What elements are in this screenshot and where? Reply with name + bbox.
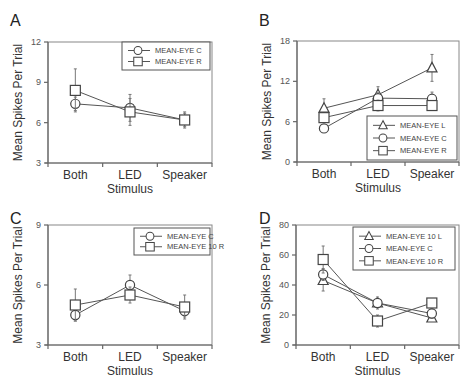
x-axis-title: Stimulus (354, 364, 400, 378)
legend: MEAN-EYE 10 LMEAN-EYE CMEAN-EYE 10 R (353, 227, 455, 270)
series-mean-eye-r (70, 69, 189, 128)
y-axis-title: Mean Spikes Per Trial (11, 44, 25, 161)
circle-marker-icon (365, 245, 373, 253)
square-marker-icon (70, 85, 80, 95)
x-category-label: LED (118, 168, 142, 182)
series-mean-eye-10-l (318, 270, 437, 322)
y-tick-label: 40 (279, 280, 289, 290)
square-marker-icon (379, 146, 388, 155)
legend-label: MEAN-EYE 10 R (386, 257, 444, 266)
x-axis-title: Stimulus (107, 182, 153, 196)
x-category-label: LED (366, 167, 390, 181)
y-tick-label: 6 (36, 280, 41, 290)
y-tick-label: 9 (36, 220, 41, 230)
legend: MEAN-EYE CMEAN-EYE R (122, 42, 210, 70)
y-tick-label: 20 (279, 310, 289, 320)
square-marker-icon (134, 57, 143, 66)
circle-marker-icon (427, 309, 436, 318)
y-tick-label: 6 (36, 118, 41, 128)
legend-label: MEAN-EYE C (400, 134, 447, 143)
y-tick-label: 3 (36, 158, 41, 168)
square-marker-icon (146, 243, 155, 252)
circle-marker-icon (319, 124, 328, 133)
panel-letter: B (259, 12, 270, 29)
legend-label: MEAN-EYE R (155, 57, 202, 66)
x-category-label: Speaker (162, 350, 207, 364)
y-axis-title: Mean Spikes Per Trial (260, 43, 274, 160)
legend-label: MEAN-EYE C (386, 244, 433, 253)
x-category-label: Speaker (409, 350, 454, 364)
legend-label: MEAN-EYE L (400, 121, 445, 130)
y-tick-label: 12 (31, 37, 41, 47)
legend-label: MEAN-EYE C (167, 232, 214, 241)
y-tick-label: 3 (36, 340, 41, 350)
multi-panel-chart: A36912BothLEDSpeakerStimulusMean Spikes … (0, 0, 471, 383)
series-mean-eye-c (319, 269, 437, 319)
square-marker-icon (373, 101, 383, 111)
x-category-label: Speaker (162, 168, 207, 182)
y-tick-label: 80 (279, 220, 289, 230)
legend-label: MEAN-EYE 10 L (386, 232, 442, 241)
panel-a: A36912BothLEDSpeakerStimulusMean Spikes … (10, 12, 212, 196)
series-mean-eye-10-r (70, 287, 189, 321)
panel-b: B061218BothLEDSpeakerStimulusMean Spikes… (259, 12, 459, 195)
circle-marker-icon (146, 232, 154, 240)
panel-c: C369BothLEDSpeakerStimulusMean Spikes Pe… (10, 210, 225, 378)
panel-letter: D (259, 210, 271, 227)
x-axis-title: Stimulus (355, 181, 401, 195)
square-marker-icon (373, 316, 383, 326)
legend-label: MEAN-EYE R (400, 146, 447, 155)
y-tick-label: 18 (280, 36, 290, 46)
circle-marker-icon (134, 47, 142, 55)
square-marker-icon (125, 290, 135, 300)
x-axis-title: Stimulus (107, 364, 153, 378)
square-marker-icon (318, 255, 328, 265)
square-marker-icon (70, 300, 80, 310)
panel-letter: A (10, 12, 21, 29)
y-tick-label: 9 (36, 77, 41, 87)
x-category-label: LED (118, 350, 142, 364)
legend: MEAN-EYE CMEAN-EYE 10 R (134, 228, 225, 255)
panel-letter: C (10, 210, 22, 227)
square-marker-icon (125, 107, 135, 117)
panel-d: D020406080BothLEDSpeakerStimulusMean Spi… (259, 210, 459, 378)
x-category-label: Speaker (410, 167, 455, 181)
x-category-label: Both (63, 168, 88, 182)
square-marker-icon (180, 115, 190, 125)
figure-container: A36912BothLEDSpeakerStimulusMean Spikes … (0, 0, 471, 383)
y-tick-label: 60 (279, 250, 289, 260)
legend-label: MEAN-EYE 10 R (167, 242, 225, 251)
y-tick-label: 12 (280, 76, 290, 86)
x-category-label: Both (63, 350, 88, 364)
x-category-label: Both (311, 350, 336, 364)
legend-label: MEAN-EYE C (155, 46, 202, 55)
circle-marker-icon (379, 134, 387, 142)
circle-marker-icon (373, 298, 382, 307)
triangle-marker-icon (427, 62, 437, 71)
square-marker-icon (365, 257, 374, 265)
square-marker-icon (427, 101, 437, 111)
y-axis-title: Mean Spikes Per Trial (259, 226, 273, 343)
square-marker-icon (180, 302, 190, 312)
square-marker-icon (319, 113, 329, 123)
y-tick-label: 0 (284, 340, 289, 350)
square-marker-icon (427, 298, 437, 308)
x-category-label: Both (312, 167, 337, 181)
y-tick-label: 6 (285, 117, 290, 127)
y-axis-title: Mean Spikes Per Trial (11, 226, 25, 343)
x-category-label: LED (366, 350, 390, 364)
y-tick-label: 0 (285, 157, 290, 167)
legend: MEAN-EYE LMEAN-EYE CMEAN-EYE R (367, 116, 457, 160)
